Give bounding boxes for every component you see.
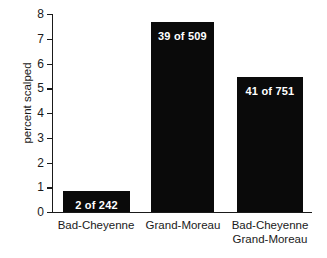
x-category-line1: Bad-Cheyenne <box>232 219 309 231</box>
bar-grand-moreau[interactable]: 39 of 509 <box>151 22 214 212</box>
bar-value-label: 39 of 509 <box>151 30 214 42</box>
y-tick-mark <box>47 113 52 114</box>
y-tick-mark <box>47 39 52 40</box>
y-tick-label: 3 <box>37 132 44 144</box>
bar-bad-cheyenne[interactable]: 2 of 242 <box>63 191 130 212</box>
y-tick-label: 5 <box>37 82 44 94</box>
x-category-line1: Grand-Moreau <box>146 219 221 231</box>
y-tick-mark <box>47 187 52 188</box>
y-tick-mark <box>47 212 52 213</box>
x-category-line2: Grand-Moreau <box>220 232 320 246</box>
y-tick-label: 7 <box>37 33 44 45</box>
y-tick-mark <box>47 138 52 139</box>
y-axis-label: percent scalped <box>21 33 33 173</box>
y-tick-label: 0 <box>37 206 44 218</box>
bar-chart-figure: percent scalped 8 7 6 5 4 3 <box>0 0 327 258</box>
y-tick-label: 1 <box>37 181 44 193</box>
y-tick-label: 6 <box>37 58 44 70</box>
x-category-label-2: Bad-Cheyenne Grand-Moreau <box>220 218 320 246</box>
y-axis-line <box>52 14 53 212</box>
x-category-label-1: Grand-Moreau <box>133 218 233 232</box>
y-tick-label: 4 <box>37 107 44 119</box>
x-category-line1: Bad-Cheyenne <box>58 219 135 231</box>
plot-area: 8 7 6 5 4 3 2 1 <box>52 14 312 212</box>
y-tick-mark <box>47 14 52 15</box>
x-axis-line <box>52 212 312 213</box>
y-tick-label: 8 <box>37 8 44 20</box>
y-tick-mark <box>47 88 52 89</box>
y-tick-mark <box>47 163 52 164</box>
bar-value-label: 2 of 242 <box>63 199 130 211</box>
bar-bad-cheyenne-grand-moreau[interactable]: 41 of 751 <box>237 77 303 212</box>
y-tick-label: 2 <box>37 157 44 169</box>
y-tick-mark <box>47 64 52 65</box>
x-category-label-0: Bad-Cheyenne <box>46 218 146 232</box>
bar-value-label: 41 of 751 <box>237 85 303 97</box>
